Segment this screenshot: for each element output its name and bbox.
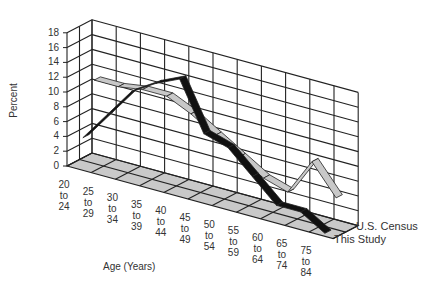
census-segment bbox=[312, 158, 342, 197]
y-tick-label: 12 bbox=[43, 71, 59, 82]
legend-this-study: This Study bbox=[334, 233, 386, 245]
y-tick-label: 14 bbox=[43, 56, 59, 67]
y-tick-label: 0 bbox=[43, 160, 59, 171]
y-tick-label: 4 bbox=[43, 130, 59, 141]
y-tick-label: 16 bbox=[43, 42, 59, 53]
y-tick-label: 10 bbox=[43, 86, 59, 97]
x-tick-label: 75 to 84 bbox=[297, 245, 315, 278]
x-tick-label: 45 to 49 bbox=[176, 212, 194, 245]
census-segment bbox=[143, 86, 173, 96]
y-tick-label: 2 bbox=[43, 145, 59, 156]
x-axis-label: Age (Years) bbox=[103, 261, 155, 272]
x-tick-label: 55 to 59 bbox=[224, 225, 242, 258]
y-tick-label: 8 bbox=[43, 101, 59, 112]
y-axis-label: Percent bbox=[8, 83, 19, 117]
x-tick-label: 40 to 44 bbox=[152, 205, 170, 238]
x-tick-label: 60 to 64 bbox=[249, 232, 267, 265]
y-tick-label: 18 bbox=[43, 27, 59, 38]
study-segment bbox=[83, 112, 113, 138]
x-tick-label: 30 to 34 bbox=[103, 192, 121, 225]
chart-3d-ribbon: 024681012141618 20 to 2425 to 2930 to 34… bbox=[0, 0, 436, 295]
x-tick-label: 65 to 74 bbox=[273, 238, 291, 271]
x-tick-label: 50 to 54 bbox=[200, 219, 218, 252]
x-tick-label: 25 to 29 bbox=[79, 186, 97, 219]
legend-us-census: U.S. Census bbox=[356, 220, 418, 232]
x-tick-label: 35 to 39 bbox=[128, 199, 146, 232]
x-tick-label: 20 to 24 bbox=[55, 179, 73, 212]
census-segment bbox=[94, 77, 124, 87]
study-segment bbox=[107, 89, 137, 115]
y-tick-label: 6 bbox=[43, 116, 59, 127]
